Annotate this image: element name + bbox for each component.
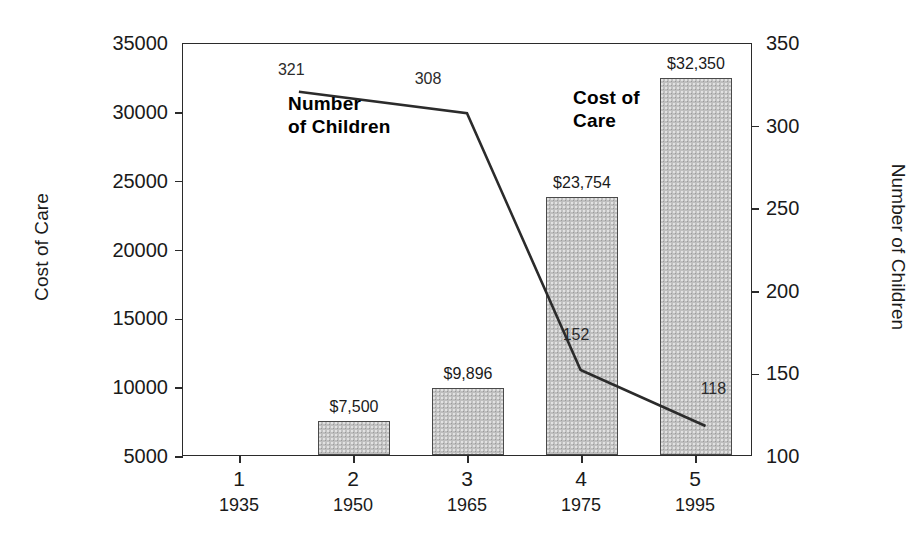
series-annotation-number-of-children: Number of Children xyxy=(288,92,390,138)
left-tick-10000: 10000 xyxy=(0,377,168,397)
x-category-1: 11935 xyxy=(179,466,299,517)
left-tickmark-5000 xyxy=(175,456,183,458)
left-tickmark-20000 xyxy=(175,250,183,252)
right-tick-150: 150 xyxy=(766,363,799,383)
bar-1950 xyxy=(318,421,390,455)
right-tick-300: 300 xyxy=(766,116,799,136)
bar-label-1965: $9,896 xyxy=(408,366,528,382)
line-label-321: 321 xyxy=(251,62,331,78)
right-tickmark-300 xyxy=(751,126,759,128)
left-tick-25000: 25000 xyxy=(0,171,168,191)
left-tickmark-15000 xyxy=(175,319,183,321)
x-category-year: 1935 xyxy=(179,494,299,517)
annot-children-line1: Number xyxy=(288,92,390,115)
left-tick-20000: 20000 xyxy=(0,240,168,260)
series-annotation-cost-of-care: Cost of Care xyxy=(573,86,640,132)
line-label-308: 308 xyxy=(388,71,468,87)
left-tick-15000: 15000 xyxy=(0,308,168,328)
x-category-number: 4 xyxy=(521,466,641,492)
x-category-number: 1 xyxy=(179,466,299,492)
x-tickmark-5 xyxy=(695,455,697,463)
x-category-year: 1995 xyxy=(635,494,755,517)
right-tick-350: 350 xyxy=(766,33,799,53)
x-category-number: 3 xyxy=(407,466,527,492)
x-tickmark-1 xyxy=(239,455,241,463)
right-tickmark-250 xyxy=(751,208,759,210)
bar-1965 xyxy=(432,388,504,455)
x-category-year: 1965 xyxy=(407,494,527,517)
line-label-152: 152 xyxy=(536,327,616,343)
x-tickmark-4 xyxy=(581,455,583,463)
x-category-2: 21950 xyxy=(293,466,413,517)
x-category-year: 1950 xyxy=(293,494,413,517)
left-tick-30000: 30000 xyxy=(0,102,168,122)
chart-canvas: Cost of Care Number of Children 50001000… xyxy=(0,0,907,534)
plot-area: $7,500$9,896$23,754$32,350 321308152118 … xyxy=(182,43,752,456)
x-category-3: 31965 xyxy=(407,466,527,517)
x-category-year: 1975 xyxy=(521,494,641,517)
right-tickmark-150 xyxy=(751,374,759,376)
right-tickmark-200 xyxy=(751,291,759,293)
x-tickmark-2 xyxy=(353,455,355,463)
x-category-number: 2 xyxy=(293,466,413,492)
annot-cost-line2: Care xyxy=(573,109,640,132)
left-tickmark-25000 xyxy=(175,181,183,183)
line-label-118: 118 xyxy=(673,381,753,397)
annot-cost-line1: Cost of xyxy=(573,86,640,109)
x-category-5: 51995 xyxy=(635,466,755,517)
left-tick-5000: 5000 xyxy=(0,446,168,466)
left-tickmark-30000 xyxy=(175,112,183,114)
bar-1995 xyxy=(660,78,732,455)
left-tickmark-10000 xyxy=(175,387,183,389)
left-tick-35000: 35000 xyxy=(0,33,168,53)
right-tick-100: 100 xyxy=(766,446,799,466)
right-tick-200: 200 xyxy=(766,281,799,301)
x-category-4: 41975 xyxy=(521,466,641,517)
annot-children-line2: of Children xyxy=(288,115,390,138)
right-tick-250: 250 xyxy=(766,198,799,218)
bar-label-1950: $7,500 xyxy=(294,399,414,415)
x-category-number: 5 xyxy=(635,466,755,492)
right-axis-title: Number of Children xyxy=(887,117,907,377)
bar-label-1995: $32,350 xyxy=(636,56,756,72)
x-tickmark-3 xyxy=(467,455,469,463)
bar-label-1975: $23,754 xyxy=(522,175,642,191)
